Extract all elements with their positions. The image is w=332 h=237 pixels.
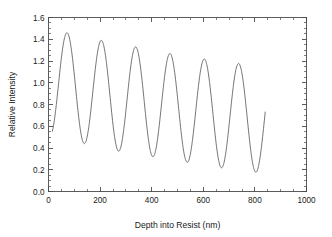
x-tick-label: 1000 xyxy=(297,196,316,205)
x-tick-label: 200 xyxy=(93,196,107,205)
y-tick-label: 1.0 xyxy=(33,79,45,88)
x-tick-label: 400 xyxy=(145,196,159,205)
y-tick-label: 1.6 xyxy=(33,14,45,23)
x-axis-title: Depth into Resist (nm) xyxy=(135,220,221,230)
y-tick-label: 0.2 xyxy=(33,166,45,175)
y-tick-label: 0.8 xyxy=(33,101,45,110)
x-tick-label: 600 xyxy=(196,196,210,205)
y-tick-label: 1.2 xyxy=(33,57,45,66)
y-tick-label: 0.4 xyxy=(33,144,45,153)
y-axis-tick-labels: 0.00.20.40.60.81.01.21.41.6 xyxy=(33,14,45,197)
y-axis-title: Relative Intensity xyxy=(7,71,17,137)
chart-figure: 02004006008001000 0.00.20.40.60.81.01.21… xyxy=(0,0,332,237)
y-tick-label: 0.6 xyxy=(33,122,45,131)
y-tick-label: 1.4 xyxy=(33,35,45,44)
y-tick-label: 0.0 xyxy=(33,188,45,197)
x-tick-label: 0 xyxy=(46,196,51,205)
x-tick-label: 800 xyxy=(248,196,262,205)
standing-wave-line-chart: 02004006008001000 0.00.20.40.60.81.01.21… xyxy=(0,0,332,237)
